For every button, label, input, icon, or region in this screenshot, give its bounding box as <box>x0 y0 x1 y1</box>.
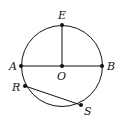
point-O <box>60 64 64 68</box>
point-B <box>100 64 104 68</box>
label-A: A <box>8 60 17 73</box>
circle-diagram: E A O B R S <box>0 0 128 127</box>
label-R: R <box>11 81 20 94</box>
label-S: S <box>84 105 92 118</box>
point-R <box>23 84 27 88</box>
label-E: E <box>57 9 66 22</box>
point-E <box>60 23 64 27</box>
label-O: O <box>57 70 66 83</box>
label-B: B <box>106 60 115 73</box>
point-A <box>19 64 23 68</box>
point-S <box>79 103 83 107</box>
chord-RS <box>25 86 81 105</box>
